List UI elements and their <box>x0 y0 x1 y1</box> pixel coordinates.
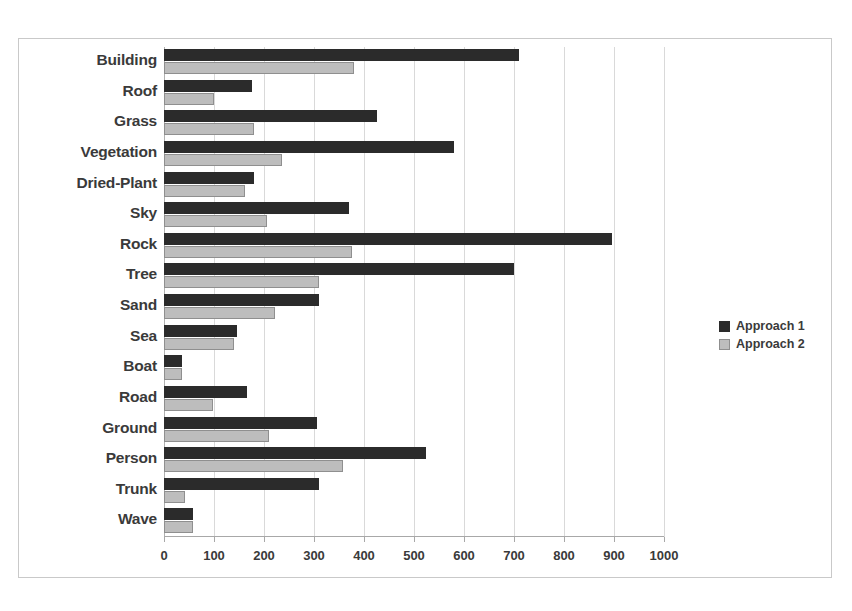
legend-swatch-series1 <box>719 321 730 332</box>
category-label-ground: Ground <box>17 419 164 437</box>
x-tick-0 <box>164 537 165 542</box>
bar-row: Sea <box>164 323 664 354</box>
bar-rock-series1[interactable] <box>164 233 612 245</box>
category-label-road: Road <box>17 388 164 406</box>
bar-wave-series2[interactable] <box>164 521 193 533</box>
x-tick-label-900: 900 <box>603 548 625 563</box>
bar-sand-series1[interactable] <box>164 294 319 306</box>
legend-label-series2: Approach 2 <box>736 337 805 351</box>
x-tick-label-0: 0 <box>160 548 167 563</box>
x-tick-200 <box>264 537 265 542</box>
bar-building-series2[interactable] <box>164 62 354 74</box>
bar-sky-series2[interactable] <box>164 215 267 227</box>
category-label-grass: Grass <box>17 112 164 130</box>
bar-grass-series1[interactable] <box>164 110 377 122</box>
x-tick-800 <box>564 537 565 542</box>
legend-item-1[interactable]: Approach 1 <box>719 319 805 333</box>
bar-trunk-series2[interactable] <box>164 491 185 503</box>
x-tick-label-500: 500 <box>403 548 425 563</box>
bar-row: Wave <box>164 506 664 537</box>
x-tick-label-1000: 1000 <box>650 548 679 563</box>
category-label-dried-plant: Dried-Plant <box>17 174 164 192</box>
x-tick-300 <box>314 537 315 542</box>
bar-roof-series1[interactable] <box>164 80 252 92</box>
category-label-sand: Sand <box>17 296 164 314</box>
x-tick-label-600: 600 <box>453 548 475 563</box>
category-label-person: Person <box>17 449 164 467</box>
gridline-1000 <box>664 47 665 537</box>
category-label-rock: Rock <box>17 235 164 253</box>
chart-frame: BuildingRoofGrassVegetationDried-PlantSk… <box>18 38 832 578</box>
bar-dried-plant-series2[interactable] <box>164 185 245 197</box>
bar-rows: BuildingRoofGrassVegetationDried-PlantSk… <box>164 47 664 537</box>
x-tick-label-400: 400 <box>353 548 375 563</box>
category-label-vegetation: Vegetation <box>17 143 164 161</box>
bar-grass-series2[interactable] <box>164 123 254 135</box>
bar-vegetation-series2[interactable] <box>164 154 282 166</box>
bar-ground-series2[interactable] <box>164 430 269 442</box>
x-tick-label-800: 800 <box>553 548 575 563</box>
category-label-roof: Roof <box>17 82 164 100</box>
bar-sea-series2[interactable] <box>164 338 234 350</box>
bar-building-series1[interactable] <box>164 49 519 61</box>
plot-area: BuildingRoofGrassVegetationDried-PlantSk… <box>164 47 664 537</box>
x-tick-100 <box>214 537 215 542</box>
x-tick-label-200: 200 <box>253 548 275 563</box>
bar-boat-series2[interactable] <box>164 368 182 380</box>
bar-vegetation-series1[interactable] <box>164 141 454 153</box>
category-label-boat: Boat <box>17 357 164 375</box>
category-label-trunk: Trunk <box>17 480 164 498</box>
bar-row: Trunk <box>164 476 664 507</box>
bar-row: Building <box>164 47 664 78</box>
legend-swatch-series2 <box>719 339 730 350</box>
bar-person-series1[interactable] <box>164 447 426 459</box>
bar-rock-series2[interactable] <box>164 246 352 258</box>
bar-row: Tree <box>164 261 664 292</box>
legend-item-2[interactable]: Approach 2 <box>719 337 805 351</box>
bar-row: Sky <box>164 200 664 231</box>
bar-row: Rock <box>164 231 664 262</box>
x-tick-700 <box>514 537 515 542</box>
category-label-sea: Sea <box>17 327 164 345</box>
x-tick-label-700: 700 <box>503 548 525 563</box>
category-label-sky: Sky <box>17 204 164 222</box>
bar-row: Grass <box>164 108 664 139</box>
x-tick-900 <box>614 537 615 542</box>
chart-legend: Approach 1Approach 2 <box>719 319 805 355</box>
bar-row: Roof <box>164 78 664 109</box>
x-tick-600 <box>464 537 465 542</box>
bar-row: Person <box>164 445 664 476</box>
bar-row: Road <box>164 384 664 415</box>
bar-road-series1[interactable] <box>164 386 247 398</box>
x-tick-1000 <box>664 537 665 542</box>
bar-trunk-series1[interactable] <box>164 478 319 490</box>
bar-person-series2[interactable] <box>164 460 343 472</box>
bar-sea-series1[interactable] <box>164 325 237 337</box>
bar-tree-series1[interactable] <box>164 263 514 275</box>
bar-row: Ground <box>164 415 664 446</box>
bar-row: Sand <box>164 292 664 323</box>
bar-road-series2[interactable] <box>164 399 213 411</box>
bar-wave-series1[interactable] <box>164 508 193 520</box>
bar-row: Boat <box>164 353 664 384</box>
bar-dried-plant-series1[interactable] <box>164 172 254 184</box>
bar-sand-series2[interactable] <box>164 307 275 319</box>
x-tick-label-100: 100 <box>203 548 225 563</box>
legend-label-series1: Approach 1 <box>736 319 805 333</box>
bar-row: Dried-Plant <box>164 170 664 201</box>
bar-tree-series2[interactable] <box>164 276 319 288</box>
bar-boat-series1[interactable] <box>164 355 182 367</box>
x-tick-500 <box>414 537 415 542</box>
bar-sky-series1[interactable] <box>164 202 349 214</box>
category-label-building: Building <box>17 51 164 69</box>
bar-ground-series1[interactable] <box>164 417 317 429</box>
category-label-wave: Wave <box>17 510 164 528</box>
x-tick-400 <box>364 537 365 542</box>
bar-roof-series2[interactable] <box>164 93 214 105</box>
x-tick-label-300: 300 <box>303 548 325 563</box>
bar-row: Vegetation <box>164 139 664 170</box>
category-label-tree: Tree <box>17 265 164 283</box>
